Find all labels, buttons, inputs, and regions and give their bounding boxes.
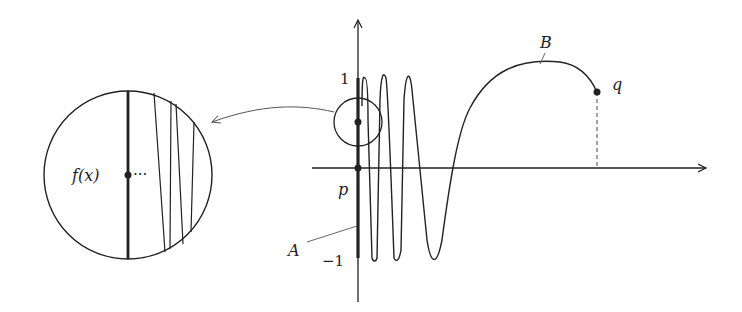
point-p [355, 165, 362, 172]
leader-b [540, 53, 545, 64]
zoom-curve-line-1 [154, 93, 165, 252]
zoom-curve-line-4 [191, 122, 194, 232]
label-q: q [612, 75, 622, 94]
curve-b [362, 61, 597, 261]
label-b: B [539, 33, 552, 52]
y-tick-neg1: −1 [322, 252, 344, 270]
zoom-arrow [212, 107, 334, 122]
point-fx [355, 119, 362, 126]
point-q [594, 89, 601, 96]
zoom-curve-line-2 [170, 101, 171, 249]
diagram-canvas: 1 −1 p q A B f(x) ··· [0, 0, 742, 312]
zoom-point-fx [125, 172, 132, 179]
label-a: A [286, 241, 300, 260]
label-p: p [338, 180, 348, 199]
y-tick-1: 1 [340, 70, 350, 88]
zoom-curve-line-3 [176, 104, 183, 244]
zoom-ellipsis: ··· [133, 165, 147, 183]
leader-a [307, 226, 357, 242]
label-fx: f(x) [71, 166, 99, 185]
